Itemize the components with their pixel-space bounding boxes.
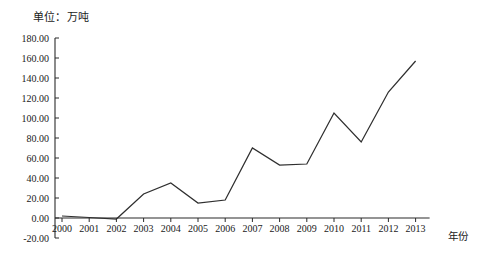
x-axis-title: 年份 — [448, 230, 469, 242]
y-axis-tick-label: 140.00 — [22, 73, 50, 84]
x-axis-tick-label: 2012 — [378, 223, 398, 234]
y-axis-tick-label: 100.00 — [22, 113, 50, 124]
y-axis-tick-label: 120.00 — [22, 93, 50, 104]
x-axis-tick-label: 2002 — [106, 223, 126, 234]
x-axis-tick-label: 2007 — [242, 223, 262, 234]
y-axis-tick-label: 80.00 — [27, 133, 50, 144]
data-series — [62, 61, 416, 219]
x-axis-tick-label: 2011 — [351, 223, 371, 234]
x-axis-tick-label: 2008 — [270, 223, 290, 234]
y-axis-tick-label: 20.00 — [27, 193, 50, 204]
y-axis-tick-label: 160.00 — [22, 53, 50, 64]
x-axis-tick-label: 2010 — [324, 223, 344, 234]
x-axis: 2000200120022003200420052006200720082009… — [52, 218, 430, 234]
x-axis-tick-label: 2013 — [406, 223, 426, 234]
series-line — [62, 61, 416, 219]
y-axis-tick-label: 40.00 — [27, 173, 50, 184]
x-axis-tick-label: 2000 — [52, 223, 72, 234]
x-axis-tick-label: 2005 — [188, 223, 208, 234]
x-axis-tick-label: 2004 — [161, 223, 181, 234]
line-chart: 单位：万吨 180.00160.00140.00120.00100.0080.0… — [0, 0, 489, 264]
y-axis: 180.00160.00140.00120.00100.0080.0060.00… — [22, 33, 60, 244]
y-axis-tick-label: -20.00 — [23, 233, 49, 244]
y-axis-tick-label: 180.00 — [22, 33, 50, 44]
x-axis-tick-label: 2009 — [297, 223, 317, 234]
x-axis-tick-label: 2003 — [134, 223, 154, 234]
y-axis-tick-label: 0.00 — [32, 213, 50, 224]
chart-plot-area: 180.00160.00140.00120.00100.0080.0060.00… — [0, 0, 489, 264]
x-axis-tick-label: 2001 — [79, 223, 99, 234]
y-axis-tick-label: 60.00 — [27, 153, 50, 164]
x-axis-tick-label: 2006 — [215, 223, 235, 234]
